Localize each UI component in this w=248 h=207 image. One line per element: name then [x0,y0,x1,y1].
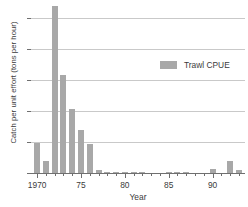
x-axis-title: Year [31,192,245,202]
x-axis-tick-mark [195,173,196,176]
x-axis-tick-label: 90 [193,181,233,189]
x-axis-tick-mark [134,173,135,176]
x-axis-tick-label: 85 [149,181,189,189]
x-axis-tick-mark [55,173,56,176]
gridline [31,49,245,50]
chart-container: Catch per unit effort (tons per hour) 01… [0,0,248,207]
x-axis-tick-mark [177,173,178,176]
y-axis-tick-mark [27,173,31,174]
x-axis-tick-mark [230,173,231,176]
bar [69,109,75,173]
x-axis-tick-mark [204,173,205,176]
plot-area: 01020304050197075808590 [31,4,245,173]
x-axis-tick-mark [81,173,82,178]
bar [52,6,58,173]
x-axis-tick-mark [116,173,117,176]
legend-label-trawl-cpue: Trawl CPUE [184,61,230,69]
x-axis-tick-label: 80 [105,181,145,189]
legend-swatch-trawl-cpue [160,61,177,69]
gridline [31,18,245,19]
y-axis-tick-mark [27,49,31,50]
bar [87,144,93,173]
x-axis-tick-mark [186,173,187,176]
bar [78,130,84,173]
x-axis-tick-mark [239,173,240,176]
x-axis-tick-mark [72,173,73,176]
y-axis-tick-mark [27,111,31,112]
bar [34,143,40,173]
legend: Trawl CPUE [160,61,230,69]
x-axis-tick-mark [213,173,214,178]
x-axis-tick-mark [142,173,143,176]
x-axis-tick-label: 1970 [17,181,57,189]
x-axis-tick-mark [169,173,170,178]
y-axis-tick-mark [27,18,31,19]
bar [43,161,49,173]
y-axis-tick-mark [27,80,31,81]
x-axis-tick-mark [63,173,64,176]
y-axis-tick-mark [27,142,31,143]
x-axis-tick-mark [46,173,47,176]
y-axis-title: Catch per unit effort (tons per hour) [9,8,18,158]
x-axis-tick-mark [160,173,161,176]
x-axis-tick-mark [107,173,108,176]
x-axis-tick-mark [37,173,38,178]
x-axis-tick-mark [125,173,126,178]
x-axis-tick-mark [99,173,100,176]
x-axis-tick-mark [221,173,222,176]
bar [60,75,66,173]
bar [227,161,233,173]
x-axis-tick-mark [90,173,91,176]
x-axis-tick-mark [151,173,152,176]
x-axis-tick-label: 75 [61,181,101,189]
